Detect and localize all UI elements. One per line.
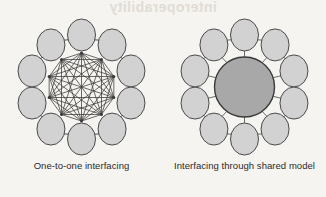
shared-model-hub xyxy=(215,57,275,117)
diagram-one-to-one-interfacing xyxy=(0,12,163,162)
caption-one-to-one: One-to-one interfacing xyxy=(0,160,163,171)
diagram-interfacing-through-shared-model xyxy=(163,12,326,162)
scanned-figure-page: interoperability One-to-one interfacing … xyxy=(0,0,326,197)
mesh-edge-group xyxy=(49,53,114,121)
caption-shared-model: Interfacing through shared model xyxy=(163,160,326,171)
figure-one-to-one: One-to-one interfacing xyxy=(0,12,163,197)
figure-shared-model: Interfacing through shared model xyxy=(163,12,326,197)
